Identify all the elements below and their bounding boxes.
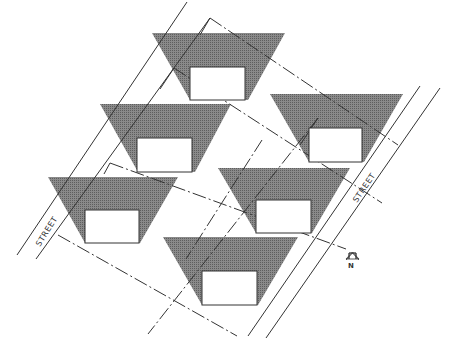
house-top [190, 67, 245, 100]
house-middle-left [137, 138, 192, 172]
house-bottom [202, 271, 257, 305]
north-arrow-icon [346, 252, 359, 260]
site-plan-diagram: STREET STREET N [0, 0, 473, 354]
house-lower-left [85, 210, 139, 243]
north-label: N [348, 262, 354, 270]
house-center-right [256, 200, 311, 233]
house-middle-right [309, 128, 362, 162]
street-label-right: STREET [351, 171, 377, 204]
